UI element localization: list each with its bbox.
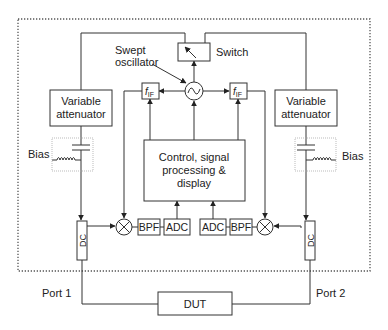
bpf-left-block: BPF — [138, 219, 160, 235]
bias-tee-right-box — [295, 138, 336, 171]
port2-label: Port 2 — [316, 287, 345, 299]
switch-block: Switch — [178, 43, 248, 61]
fif-left-block: fIF — [142, 83, 159, 99]
switch-label: Switch — [216, 46, 248, 58]
wire-fif-right-to-mixer — [246, 91, 265, 218]
wire-dc-left-to-mixer — [86, 226, 115, 228]
inductor-left-icon — [52, 158, 81, 161]
dc-right-block: DC — [305, 221, 316, 260]
swept-oscillator — [185, 82, 203, 100]
swept-oscillator-label-line2: oscillator — [115, 56, 159, 68]
mixer-right — [257, 219, 273, 235]
wire-dc-right-to-mixer — [274, 226, 301, 228]
bias-right-label: Bias — [342, 150, 364, 162]
fif-left-sub: IF — [148, 91, 154, 98]
adc-left-block: ADC — [164, 219, 190, 235]
capacitor-left-icon — [72, 145, 90, 150]
bpf-left-label: BPF — [139, 221, 159, 233]
wire-port1-to-dut — [82, 260, 158, 304]
attenuator-left-line2: attenuator — [56, 108, 106, 120]
fif-right-sub: IF — [236, 91, 242, 98]
adc-right-block: ADC — [200, 219, 226, 235]
swept-oscillator-label-line1: Swept — [115, 44, 146, 56]
attenuator-left-block: Variable attenuator — [50, 90, 112, 126]
dc-left-label: DC — [78, 234, 88, 247]
wire-port2-to-dut — [232, 260, 310, 304]
inductor-right-icon — [306, 158, 336, 161]
adc-left-label: ADC — [166, 221, 189, 233]
bpf-right-block: BPF — [230, 219, 252, 235]
attenuator-left-line1: Variable — [61, 95, 101, 107]
bias-tee-left-box — [52, 138, 93, 171]
vna-block-diagram: Switch Swept oscillator fIF fIF Variable… — [0, 0, 388, 330]
bpf-right-label: BPF — [231, 221, 251, 233]
capacitor-right-icon — [297, 145, 315, 150]
control-line1: Control, signal — [159, 151, 229, 163]
mixer-left — [116, 219, 132, 235]
wire-switch-to-attenuator-right — [205, 33, 306, 90]
bias-left-label: Bias — [28, 148, 50, 160]
dc-right-label: DC — [306, 234, 316, 247]
control-line2: processing & — [162, 164, 226, 176]
fif-right-block: fIF — [230, 83, 247, 99]
control-processing-display-block: Control, signal processing & display — [144, 140, 245, 201]
attenuator-right-line2: attenuator — [281, 108, 331, 120]
dut-label: DUT — [184, 298, 207, 310]
dc-left-block: DC — [77, 221, 88, 260]
attenuator-right-line1: Variable — [286, 95, 326, 107]
attenuator-right-block: Variable attenuator — [275, 90, 337, 126]
adc-right-label: ADC — [202, 221, 225, 233]
port1-label: Port 1 — [42, 287, 71, 299]
control-line3: display — [177, 177, 212, 189]
dut-block: DUT — [158, 292, 232, 315]
wire-fif-left-to-mixer — [124, 91, 142, 218]
